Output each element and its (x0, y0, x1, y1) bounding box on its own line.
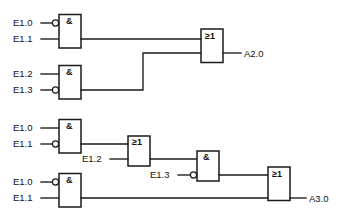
gate-and-5-symbol: & (66, 175, 73, 185)
gate-and-2-symbol: & (66, 67, 73, 77)
gate-or-3-symbol: ≥1 (272, 169, 282, 179)
circuit-canvas: & E1.0 E1.1 & E1.2 E1.3 ≥1 A2.0 & (0, 0, 345, 218)
pin-label-g5-in1: E1.0 (13, 176, 33, 187)
pin-label-and4-in2: E1.3 (150, 169, 170, 180)
negation-bubble-g3-in2 (52, 141, 58, 147)
negation-bubble-g2-in2 (52, 87, 58, 93)
pin-label-g2-in1: E1.2 (13, 68, 33, 79)
negation-bubble-and4-in2 (190, 172, 196, 178)
negation-bubble-g5-in1 (52, 179, 58, 185)
wire-g2-out-to-or1 (81, 53, 201, 90)
pin-label-g1-in1: E1.0 (13, 17, 33, 28)
pin-label-g3-in1: E1.0 (13, 122, 33, 133)
logic-diagram: & E1.0 E1.1 & E1.2 E1.3 ≥1 A2.0 & (0, 0, 345, 218)
pin-label-or2-in2: E1.2 (82, 153, 102, 164)
negation-bubble-g1-in1 (52, 20, 58, 26)
gate-and-4-symbol: & (203, 152, 210, 162)
gate-or-1-symbol: ≥1 (205, 31, 215, 41)
output-label-a3-0: A3.0 (309, 193, 329, 204)
gate-or-2-symbol: ≥1 (132, 137, 142, 147)
output-label-a2-0: A2.0 (244, 48, 264, 59)
pin-label-g5-in2: E1.1 (13, 192, 33, 203)
pin-label-g3-in2: E1.1 (13, 138, 33, 149)
pin-label-g2-in2: E1.3 (13, 84, 33, 95)
pin-label-g1-in2: E1.1 (13, 33, 33, 44)
gate-and-1-symbol: & (66, 16, 73, 26)
gate-and-3-symbol: & (66, 121, 73, 131)
